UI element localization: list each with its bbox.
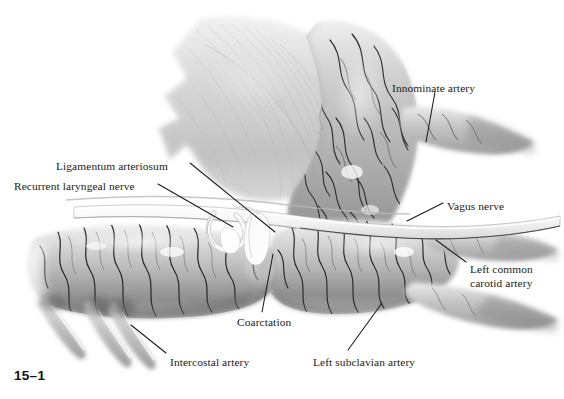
- label-ligamentum-arteriosum: Ligamentum arteriosum: [56, 160, 168, 174]
- label-coarctation: Coarctation: [237, 316, 291, 330]
- label-intercostal-artery: Intercostal artery: [170, 356, 249, 370]
- label-left-subclavian-artery: Left subclavian artery: [313, 356, 415, 370]
- anatomical-figure: Innominate artery Ligamentum arteriosum …: [0, 0, 564, 399]
- innominate-artery-vessel: [401, 106, 534, 154]
- label-innominate-artery: Innominate artery: [392, 82, 475, 96]
- figure-number: 15–1: [14, 368, 45, 383]
- label-left-common-carotid-artery: Left common carotid artery: [470, 263, 562, 290]
- label-vagus-nerve: Vagus nerve: [447, 200, 504, 214]
- vagus-nerve-leader: [407, 203, 443, 221]
- label-recurrent-laryngeal-nerve: Recurrent laryngeal nerve: [14, 180, 135, 194]
